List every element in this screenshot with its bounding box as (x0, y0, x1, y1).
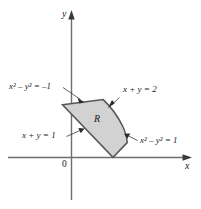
figure-canvas (0, 0, 201, 209)
math-figure-region-r: x² – y² = –1 x + y = 2 x + y = 1 x² – y²… (0, 0, 201, 209)
x-axis-label: x (185, 161, 189, 171)
annotation-hyperbola-neg-one-text: x² – y² = –1 (9, 81, 51, 91)
annotation-line-sum-two-text: x + y = 2 (123, 84, 157, 94)
leader-line-sum-one (67, 128, 85, 137)
origin-label: 0 (62, 160, 67, 170)
annotation-line-sum-two: x + y = 2 (123, 85, 157, 94)
leader-hyperbola-neg-one (63, 88, 85, 104)
region-r-shape (63, 100, 128, 158)
x-axis (8, 154, 192, 160)
region-label: R (94, 114, 100, 124)
annotation-hyperbola-one-text: x² – y² = 1 (140, 135, 177, 145)
annotation-hyperbola-neg-one: x² – y² = –1 (9, 82, 51, 91)
y-axis-label: y (62, 9, 66, 19)
annotation-line-sum-one: x + y = 1 (22, 131, 56, 140)
annotation-line-sum-one-text: x + y = 1 (22, 130, 56, 140)
annotation-hyperbola-one: x² – y² = 1 (140, 136, 177, 145)
leader-line-sum-two (108, 98, 120, 109)
